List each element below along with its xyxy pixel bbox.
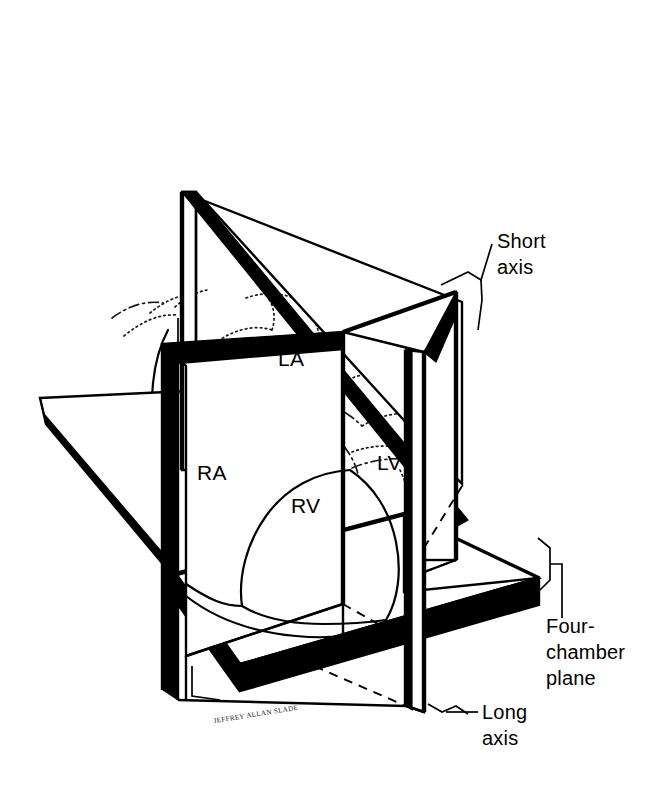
long-axis-line-1: Long <box>482 701 527 723</box>
four-chamber-line-3: plane <box>546 667 596 689</box>
short-axis-line-1: Short <box>497 230 546 252</box>
label-rv: RV <box>291 494 320 517</box>
four-chamber-line-1: Four- <box>546 615 595 637</box>
four-chamber-line-2: chamber <box>546 641 625 663</box>
figure-root: JEFFREY ALLAN SLADE LA RA LV RV Short ax… <box>0 0 649 788</box>
label-ra: RA <box>197 461 227 484</box>
label-lv: LV <box>377 451 402 474</box>
long-axis-line-2: axis <box>482 727 518 749</box>
short-axis-line-2: axis <box>497 256 533 278</box>
long-axis-right-post <box>406 350 424 712</box>
label-la: LA <box>278 347 304 370</box>
front-plate-left-stile <box>163 344 178 700</box>
cardiac-planes-diagram: JEFFREY ALLAN SLADE LA RA LV RV Short ax… <box>0 0 649 788</box>
